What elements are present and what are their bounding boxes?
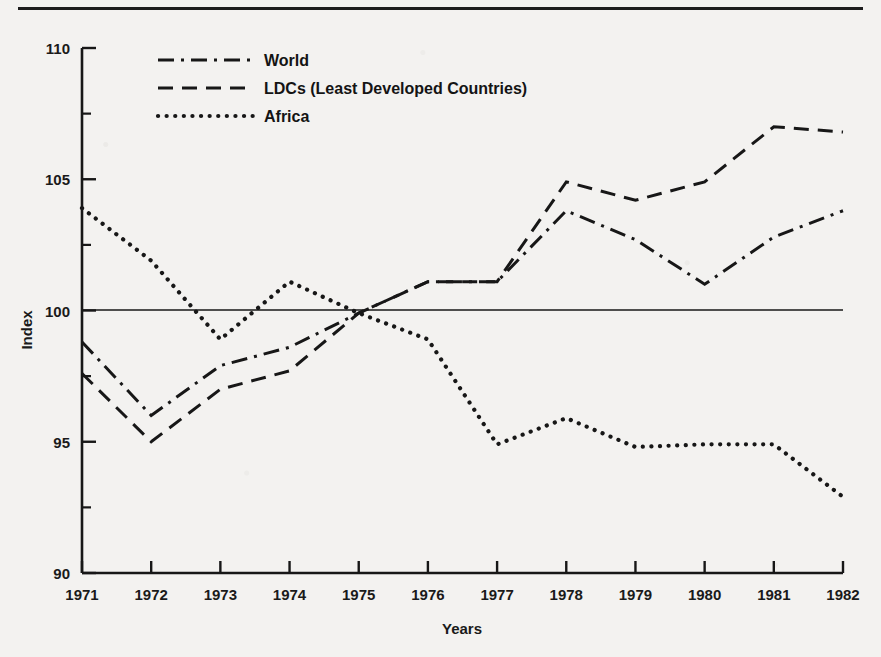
- legend-label: LDCs (Least Developed Countries): [264, 80, 527, 97]
- chart-legend: WorldLDCs (Least Developed Countries)Afr…: [158, 52, 527, 125]
- y-tick-label: 105: [45, 171, 70, 188]
- line-chart: 9095100105110 19711972197319741975197619…: [0, 0, 881, 657]
- x-tick-label: 1974: [273, 586, 307, 603]
- page-background: 9095100105110 19711972197319741975197619…: [0, 0, 881, 657]
- legend-label: Africa: [264, 108, 309, 125]
- y-axis-title: Index: [18, 310, 35, 350]
- x-axis-tick-labels: 1971197219731974197519761977197819791980…: [65, 586, 859, 603]
- x-tick-label: 1973: [204, 586, 237, 603]
- x-tick-label: 1975: [342, 586, 375, 603]
- y-tick-label: 95: [53, 434, 70, 451]
- series-line-africa: [82, 208, 843, 497]
- x-tick-label: 1971: [65, 586, 98, 603]
- series-group: [82, 127, 843, 497]
- x-axis-title: Years: [442, 620, 482, 637]
- x-tick-label: 1980: [688, 586, 721, 603]
- x-tick-label: 1982: [826, 586, 859, 603]
- x-tick-label: 1977: [480, 586, 513, 603]
- x-tick-label: 1978: [550, 586, 583, 603]
- y-tick-label: 90: [53, 565, 70, 582]
- x-tick-label: 1979: [619, 586, 652, 603]
- x-tick-label: 1981: [757, 586, 790, 603]
- legend-label: World: [264, 52, 309, 69]
- x-tick-label: 1972: [134, 586, 167, 603]
- chart-svg: 9095100105110 19711972197319741975197619…: [0, 0, 881, 657]
- x-tick-label: 1976: [411, 586, 444, 603]
- y-tick-label: 110: [46, 40, 70, 57]
- x-axis-ticks: [82, 561, 843, 573]
- y-axis-ticks: [82, 48, 96, 573]
- y-tick-label: 100: [45, 303, 70, 320]
- series-line-ldcs: [82, 127, 843, 442]
- y-axis-tick-labels: 9095100105110: [45, 40, 70, 582]
